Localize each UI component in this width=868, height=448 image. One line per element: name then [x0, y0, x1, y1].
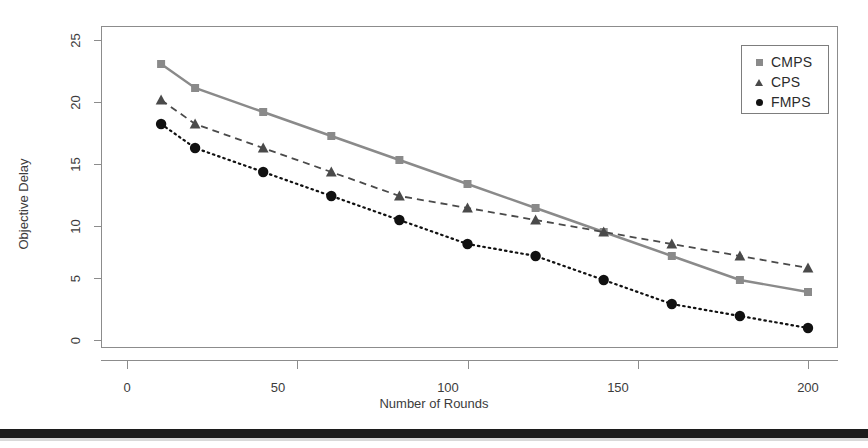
bottom-band-shadow — [0, 438, 868, 441]
y-tick-label-25: 25 — [68, 24, 83, 58]
legend-label-fmps: FMPS — [771, 94, 811, 110]
y-tick-label-10: 10 — [68, 210, 83, 244]
x-tick-label-50: 50 — [258, 380, 298, 395]
x-tick-label-100: 100 — [428, 380, 468, 395]
legend-label-cps: CPS — [771, 74, 800, 90]
x-tick-label-0: 0 — [107, 380, 147, 395]
y-tick-label-20: 20 — [68, 86, 83, 120]
circle-marker-icon — [751, 99, 767, 106]
y-axis-title: Objective Delay — [16, 124, 31, 284]
legend-item-fmps: FMPS — [742, 92, 828, 112]
y-tick-label-15: 15 — [68, 148, 83, 182]
chart-legend: CMPS CPS FMPS — [741, 45, 829, 114]
legend-item-cps: CPS — [742, 72, 828, 92]
legend-item-cmps: CMPS — [742, 52, 828, 72]
x-tick-label-150: 150 — [598, 380, 638, 395]
triangle-marker-icon — [751, 79, 767, 86]
x-tick-label-200: 200 — [788, 380, 828, 395]
y-tick-label-0: 0 — [68, 324, 83, 358]
x-axis-title: Number of Rounds — [0, 396, 868, 411]
chart-figure: 25 20 15 10 5 0 0 50 100 150 200 Objecti… — [0, 0, 868, 448]
square-marker-icon — [751, 59, 767, 66]
bottom-dark-band — [0, 429, 868, 438]
y-tick-label-5: 5 — [68, 262, 83, 296]
legend-label-cmps: CMPS — [771, 54, 812, 70]
plot-area-frame — [101, 26, 838, 348]
